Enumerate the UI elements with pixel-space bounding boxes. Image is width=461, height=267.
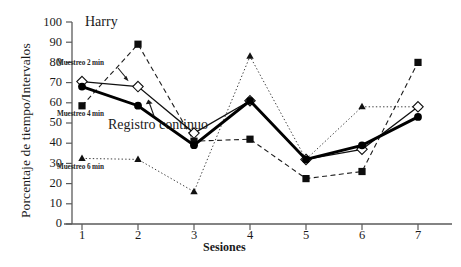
x-tick-label-4: 4	[240, 228, 260, 243]
x-tick-label-3: 3	[184, 228, 204, 243]
y-tick-label-100: 100	[36, 15, 62, 30]
annotation-muestreo-6-min: Muestreo 6 min	[57, 163, 104, 171]
x-tick-label-2: 2	[128, 228, 148, 243]
y-tick-label-10: 10	[36, 196, 62, 211]
x-tick-label-1: 1	[72, 228, 92, 243]
x-tick-label-6: 6	[352, 228, 372, 243]
y-tick-label-90: 90	[36, 35, 62, 50]
y-tick-label-20: 20	[36, 176, 62, 191]
annotation-registro-continuo: Registro continuo	[108, 117, 208, 133]
y-axis-title: Porcentaje de tiempo/Intervalos	[18, 43, 34, 218]
chart-title: Harry	[85, 14, 118, 30]
y-tick-label-70: 70	[36, 75, 62, 90]
x-tick-label-7: 7	[408, 228, 428, 243]
annotation-muestreo-4-min: Muestreo 4 min	[57, 110, 104, 118]
y-tick-label-40: 40	[36, 135, 62, 150]
series-muestreo-4-min	[78, 41, 421, 183]
chart-figure: Porcentaje de tiempo/Intervalos Sesiones…	[0, 0, 461, 267]
y-tick-marks	[66, 22, 72, 224]
annotation-muestreo-2-min: Muestreo 2 min	[57, 59, 104, 67]
y-tick-label-60: 60	[36, 95, 62, 110]
y-tick-label-0: 0	[36, 216, 62, 231]
x-tick-label-5: 5	[296, 228, 316, 243]
chart-plot-area	[0, 0, 461, 267]
